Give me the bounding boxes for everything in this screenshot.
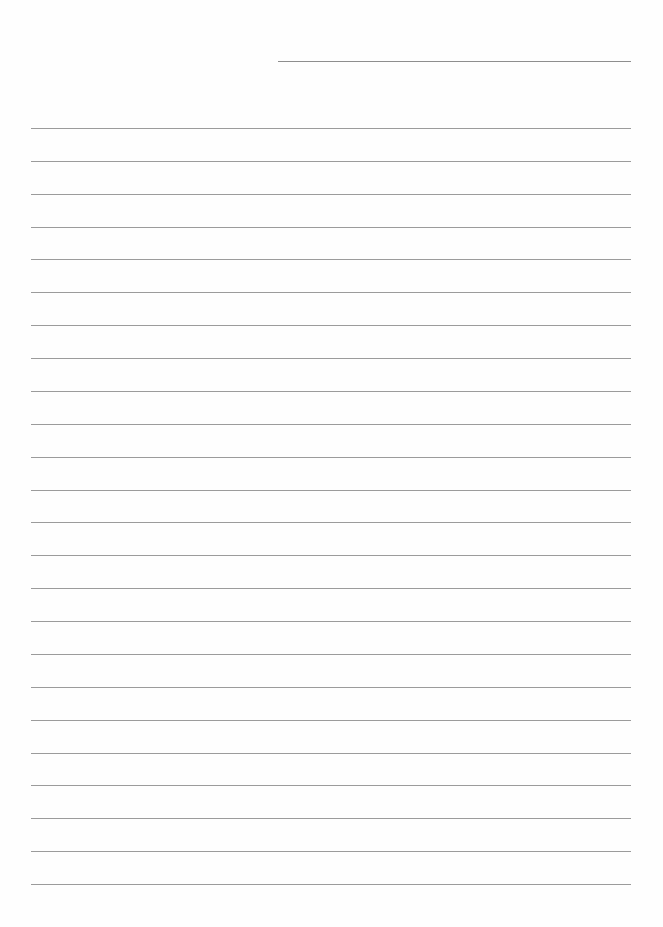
ruled-line	[31, 227, 631, 228]
ruled-line	[31, 522, 631, 523]
ruled-line	[31, 358, 631, 359]
lined-paper-page	[0, 0, 663, 927]
ruled-line	[31, 555, 631, 556]
ruled-line	[31, 128, 631, 129]
ruled-line	[31, 325, 631, 326]
header-signature-line	[278, 61, 631, 62]
ruled-line	[31, 194, 631, 195]
ruled-line	[31, 292, 631, 293]
ruled-line	[31, 391, 631, 392]
ruled-line	[31, 818, 631, 819]
ruled-line	[31, 490, 631, 491]
ruled-line	[31, 161, 631, 162]
ruled-line	[31, 424, 631, 425]
ruled-line	[31, 621, 631, 622]
ruled-line	[31, 457, 631, 458]
ruled-line	[31, 884, 631, 885]
ruled-line	[31, 588, 631, 589]
ruled-line	[31, 753, 631, 754]
ruled-line	[31, 720, 631, 721]
ruled-line	[31, 785, 631, 786]
ruled-line	[31, 687, 631, 688]
ruled-line	[31, 851, 631, 852]
ruled-line	[31, 654, 631, 655]
ruled-line	[31, 259, 631, 260]
